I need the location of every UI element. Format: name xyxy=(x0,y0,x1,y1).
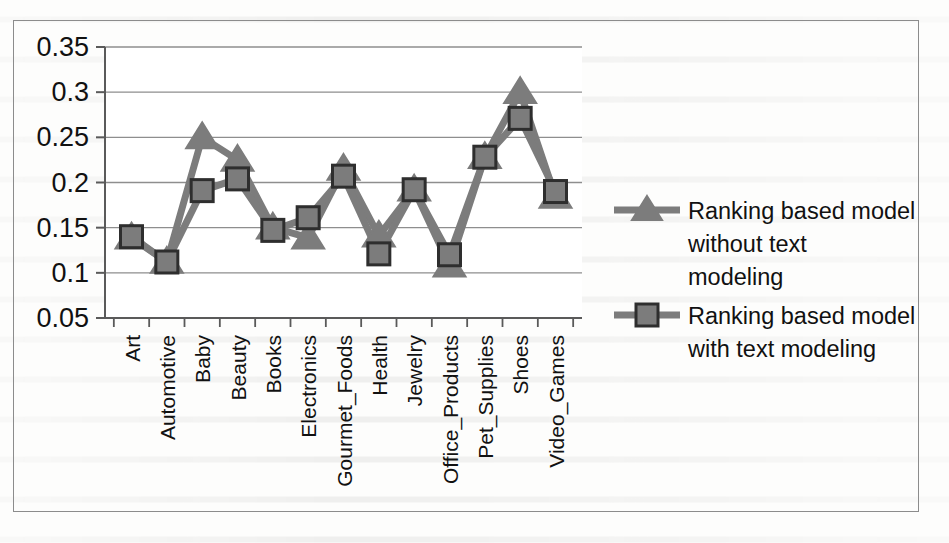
data-point-health-series2 xyxy=(368,243,390,265)
data-point-office_products-series2 xyxy=(439,244,461,266)
x-axis-category-label-electronics: Electronics xyxy=(297,335,320,438)
y-axis-label-0.15: 0.15 xyxy=(36,213,89,243)
data-point-gourmet_foods-series2 xyxy=(333,165,355,187)
y-axis-label-0.1: 0.1 xyxy=(51,258,89,288)
chart-legend: Ranking based modelwithout textmodelingR… xyxy=(614,196,915,362)
x-axis-category-label-gourmet_foods: Gourmet_Foods xyxy=(333,335,357,487)
x-axis-category-label-automotive: Automotive xyxy=(156,335,179,440)
x-axis-tick-marks xyxy=(114,318,573,327)
y-axis-tick-marks xyxy=(96,47,105,318)
data-point-baby-series2 xyxy=(191,180,213,202)
data-point-electronics-series2 xyxy=(297,207,319,229)
data-point-pet_supplies-series2 xyxy=(474,146,496,168)
y-axis-label-0.3: 0.3 xyxy=(51,77,89,107)
x-axis-category-labels: ArtAutomotiveBabyBeautyBooksElectronicsG… xyxy=(121,335,569,487)
x-axis-category-label-office_products: Office_Products xyxy=(439,335,463,484)
data-point-art-series2 xyxy=(121,226,143,248)
legend-label-1-line-3: modeling xyxy=(688,264,783,290)
x-axis-category-label-art: Art xyxy=(121,335,144,362)
x-axis-category-label-video_games: Video_Games xyxy=(545,335,569,468)
x-axis-category-label-books: Books xyxy=(262,335,285,393)
legend-label-2-line-1: Ranking based model xyxy=(688,303,915,329)
data-point-jewelry-series2 xyxy=(403,179,425,201)
line-chart: 0.050.10.150.20.250.30.35 ArtAutomotiveB… xyxy=(14,21,917,510)
legend-label-2-line-2: with text modeling xyxy=(687,336,876,362)
y-axis-tick-labels: 0.050.10.150.20.250.30.35 xyxy=(36,32,89,333)
x-axis-category-label-pet_supplies: Pet_Supplies xyxy=(474,335,498,459)
x-axis-category-label-health: Health xyxy=(368,335,391,396)
x-axis-category-label-jewelry: Jewelry xyxy=(403,335,426,407)
y-axis-label-0.2: 0.2 xyxy=(51,168,89,198)
x-axis-category-label-baby: Baby xyxy=(191,335,214,383)
x-axis-category-label-shoes: Shoes xyxy=(509,335,532,395)
y-axis-label-0.35: 0.35 xyxy=(36,32,89,62)
data-point-shoes-series2 xyxy=(509,107,531,129)
data-point-books-series2 xyxy=(262,219,284,241)
legend-label-1-line-1: Ranking based model xyxy=(688,198,915,224)
data-point-video_games-series2 xyxy=(545,181,567,203)
y-axis-label-0.05: 0.05 xyxy=(36,303,89,333)
legend-label-1-line-2: without text xyxy=(687,231,807,257)
y-axis-label-0.25: 0.25 xyxy=(36,122,89,152)
x-axis-category-label-beauty: Beauty xyxy=(227,335,250,401)
chart-frame: 0.050.10.150.20.250.30.35 ArtAutomotiveB… xyxy=(13,20,919,512)
legend-square-marker-2 xyxy=(636,304,658,326)
data-point-automotive-series2 xyxy=(156,251,178,273)
data-point-beauty-series2 xyxy=(227,168,249,190)
